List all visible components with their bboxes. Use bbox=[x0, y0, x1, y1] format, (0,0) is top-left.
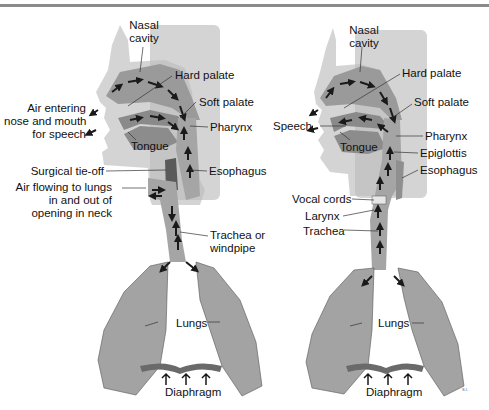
label-soft-palate-left: Soft palate bbox=[199, 96, 254, 109]
label-air-entering: Air entering nose and mouth for speech bbox=[4, 102, 86, 141]
label-line: Nasal bbox=[124, 19, 164, 32]
label-line: Trachea or bbox=[210, 229, 265, 242]
label-lungs-left: Lungs bbox=[176, 317, 207, 330]
label-diaphragm-right: Diaphragm bbox=[366, 386, 422, 399]
label-line: Air flowing to lungs bbox=[2, 181, 112, 194]
label-trachea-right: Trachea bbox=[303, 225, 345, 238]
label-trachea-left: Trachea or windpipe bbox=[210, 229, 265, 255]
label-speech: Speech bbox=[273, 120, 312, 133]
label-hard-palate-right: Hard palate bbox=[402, 67, 461, 80]
label-epiglottis: Epiglottis bbox=[420, 147, 467, 160]
label-soft-palate-right: Soft palate bbox=[414, 96, 469, 109]
label-nasal-cavity-right: Nasal cavity bbox=[344, 24, 384, 50]
label-diaphragm-left: Diaphragm bbox=[165, 386, 221, 399]
label-surgical-tie-off: Surgical tie-off bbox=[2, 165, 104, 178]
label-air-flowing: Air flowing to lungs in and out of openi… bbox=[2, 181, 112, 220]
label-line: cavity bbox=[344, 37, 384, 50]
label-line: opening in neck bbox=[2, 207, 112, 220]
label-hard-palate-left: Hard palate bbox=[175, 69, 234, 82]
label-esophagus-left: Esophagus bbox=[209, 165, 267, 178]
label-larynx: Larynx bbox=[305, 210, 340, 223]
label-pharynx-right: Pharynx bbox=[425, 130, 467, 143]
label-lungs-right: Lungs bbox=[378, 317, 409, 330]
label-esophagus-right: Esophagus bbox=[420, 164, 478, 177]
label-pharynx-left: Pharynx bbox=[210, 121, 252, 134]
label-line: in and out of bbox=[2, 194, 112, 207]
label-line: Nasal bbox=[344, 24, 384, 37]
label-line: Air entering bbox=[4, 102, 86, 115]
label-line: windpipe bbox=[210, 242, 265, 255]
label-nasal-cavity-left: Nasal cavity bbox=[124, 19, 164, 45]
label-vocal-cords: Vocal cords bbox=[292, 193, 351, 206]
label-line: nose and mouth bbox=[4, 115, 86, 128]
label-tongue-right: Tongue bbox=[340, 141, 378, 154]
label-line: cavity bbox=[124, 32, 164, 45]
artist-signature: S.I. bbox=[462, 387, 468, 392]
label-tongue-left: Tongue bbox=[131, 140, 169, 153]
label-line: for speech bbox=[4, 128, 86, 141]
